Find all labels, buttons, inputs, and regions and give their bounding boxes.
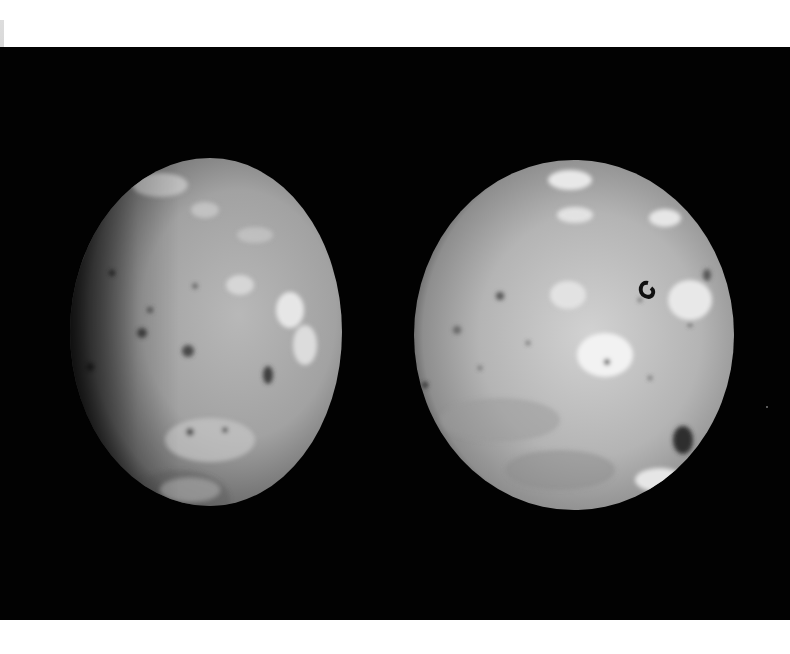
star-dot [766,406,768,408]
io-right [414,160,734,510]
io-photograph [0,0,790,654]
io-left [70,158,342,530]
